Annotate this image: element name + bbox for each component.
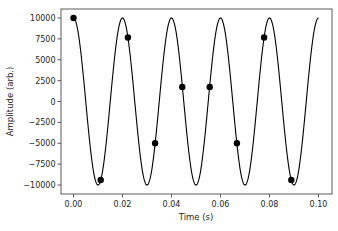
y-tick-label: 7500 — [35, 35, 55, 44]
y-tick-label: 5000 — [35, 56, 55, 65]
x-tick-label: 0.04 — [163, 200, 181, 209]
x-tick-label: 0.08 — [261, 200, 279, 209]
sample-marker — [261, 34, 267, 40]
sample-marker — [288, 177, 294, 183]
sample-marker — [179, 84, 185, 90]
x-tick-label: 0.02 — [114, 200, 132, 209]
x-tick-label: 0.06 — [212, 200, 230, 209]
x-tick-label: 0.10 — [310, 200, 328, 209]
x-axis-label: Time (s) — [178, 212, 214, 222]
sample-marker — [207, 84, 213, 90]
x-axis: 0.000.020.040.060.080.10 — [65, 194, 328, 209]
y-tick-label: 2500 — [35, 77, 55, 86]
x-tick-label: 0.00 — [65, 200, 83, 209]
y-tick-label: −10000 — [23, 181, 55, 190]
sample-marker — [70, 15, 76, 21]
y-tick-label: 0 — [50, 98, 55, 107]
y-tick-label: −7500 — [28, 160, 55, 169]
y-axis: 100007500500025000−2500−5000−7500−10000 — [23, 14, 61, 190]
sample-marker — [125, 34, 131, 40]
y-axis-label: Amplitude (arb.) — [5, 67, 15, 137]
y-tick-label: 10000 — [30, 14, 55, 23]
sample-marker — [97, 177, 103, 183]
y-tick-label: −2500 — [28, 118, 55, 127]
plot-area — [61, 9, 332, 194]
sample-marker — [234, 140, 240, 146]
sample-marker — [152, 140, 158, 146]
signal-line — [74, 18, 319, 185]
plot-frame — [61, 9, 332, 194]
y-tick-label: −5000 — [28, 139, 55, 148]
chart: 100007500500025000−2500−5000−7500−10000 … — [0, 0, 338, 231]
